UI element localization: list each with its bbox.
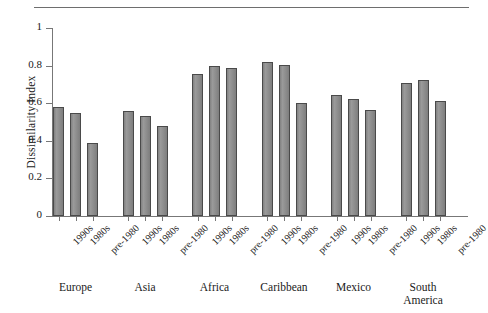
chart-bar [418,80,429,216]
chart-bar [140,116,151,216]
chart-bar [53,107,64,216]
chart-bar [279,65,290,216]
x-axis-tick [93,216,94,221]
group-label: South America [383,281,463,307]
chart-bar [209,66,220,216]
x-axis-tick [284,216,285,221]
group-label: Mexico [314,281,394,294]
chart-bar [348,99,359,217]
chart-bar [296,103,307,216]
group-label: Africa [175,281,255,294]
chart-bar [157,126,168,216]
x-axis-tick [128,216,129,221]
group-label: Caribbean [244,281,324,294]
period-label: pre-1980 [247,223,280,256]
x-axis-tick [406,216,407,221]
group-label: Europe [36,281,116,294]
bars-layer [0,0,476,216]
group-label: Asia [105,281,185,294]
x-axis-tick [371,216,372,221]
chart-bar [365,110,376,216]
chart-bar [262,62,273,216]
x-axis-tick [59,216,60,221]
x-axis-tick [145,216,146,221]
period-label: pre-1980 [108,223,141,256]
x-axis-tick [232,216,233,221]
x-axis-tick [76,216,77,221]
x-axis-tick [267,216,268,221]
y-axis-tick: 0 [46,216,52,217]
x-axis-tick [354,216,355,221]
chart-bar [192,74,203,216]
x-axis-tick [337,216,338,221]
x-axis-tick [440,216,441,221]
period-label: pre-1980 [317,223,350,256]
chart-bar [401,83,412,216]
chart-bar [87,143,98,216]
x-axis-tick [423,216,424,221]
chart-bar [435,101,446,216]
chart-bar [331,95,342,216]
x-axis-tick [301,216,302,221]
chart-bar [226,68,237,216]
x-axis-tick [162,216,163,221]
period-label: pre-1980 [456,223,488,256]
chart-bar [70,113,81,216]
chart-bar [123,111,134,216]
x-axis-tick [198,216,199,221]
period-label: pre-1980 [178,223,211,256]
period-label: pre-1980 [386,223,419,256]
x-axis-tick [215,216,216,221]
